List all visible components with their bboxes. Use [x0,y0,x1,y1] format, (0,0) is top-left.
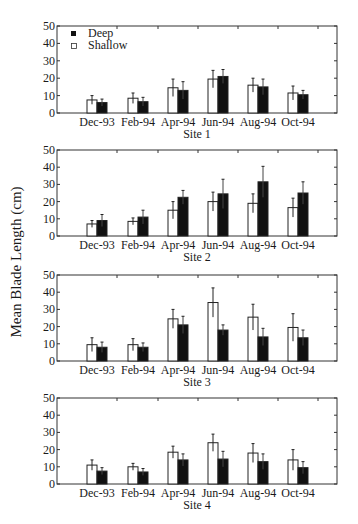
y-tick-label: 0 [49,477,55,491]
y-tick-label: 40 [43,160,55,174]
panel-1: 01020304050Dec-93Feb-94Apr-94Jun-94Aug-9… [43,19,337,141]
y-tick-label: 50 [43,268,55,282]
x-tick-label: Dec-93 [79,363,114,377]
y-tick-label: 10 [43,212,55,226]
x-tick-label: Oct-94 [281,486,314,500]
y-tick-label: 0 [49,354,55,368]
y-tick-label: 20 [43,320,55,334]
y-tick-label: 20 [43,195,55,209]
y-tick-label: 30 [43,177,55,191]
panel-title: Site 2 [183,250,211,264]
x-tick-label: Feb-94 [121,115,155,129]
y-tick-label: 50 [43,19,55,33]
y-tick-label: 40 [43,285,55,299]
x-tick-label: Dec-93 [79,486,114,500]
x-tick-label: Aug-94 [240,363,277,377]
y-axis-label: Mean Blade Length (cm) [8,142,28,382]
x-tick-label: Feb-94 [121,363,155,377]
y-tick-label: 10 [43,337,55,351]
y-tick-label: 50 [43,143,55,157]
panel-3: 01020304050Dec-93Feb-94Apr-94Jun-94Aug-9… [43,268,337,389]
x-tick-label: Aug-94 [240,238,277,252]
x-tick-label: Aug-94 [240,115,277,129]
x-tick-label: Aug-94 [240,486,277,500]
panel-2: 01020304050Dec-93Feb-94Apr-94Jun-94Aug-9… [43,143,337,264]
y-tick-label: 20 [43,71,55,85]
blade-length-figure: Mean Blade Length (cm) 01020304050Dec-93… [0,0,358,524]
y-tick-label: 40 [43,408,55,422]
panel-title: Site 3 [183,375,211,389]
legend-shallow-swatch [72,44,77,49]
legend-shallow-label: Shallow [88,38,128,52]
y-tick-label: 30 [43,425,55,439]
x-tick-label: Oct-94 [281,238,314,252]
panels-canvas: 01020304050Dec-93Feb-94Apr-94Jun-94Aug-9… [0,0,358,524]
y-tick-label: 20 [43,443,55,457]
x-tick-label: Feb-94 [121,486,155,500]
legend-deep-swatch [71,31,76,36]
panel-title: Site 4 [183,498,211,512]
y-tick-label: 40 [43,36,55,50]
y-tick-label: 0 [49,229,55,243]
y-tick-label: 50 [43,391,55,405]
x-tick-label: Oct-94 [281,363,314,377]
panel-title: Site 1 [183,127,211,141]
x-tick-label: Dec-93 [79,238,114,252]
x-tick-label: Oct-94 [281,115,314,129]
y-tick-label: 10 [43,89,55,103]
y-tick-label: 10 [43,460,55,474]
x-tick-label: Dec-93 [79,115,114,129]
y-tick-label: 30 [43,54,55,68]
x-tick-label: Feb-94 [121,238,155,252]
y-tick-label: 30 [43,302,55,316]
y-tick-label: 0 [49,106,55,120]
panel-4: 01020304050Dec-93Feb-94Apr-94Jun-94Aug-9… [43,391,337,512]
